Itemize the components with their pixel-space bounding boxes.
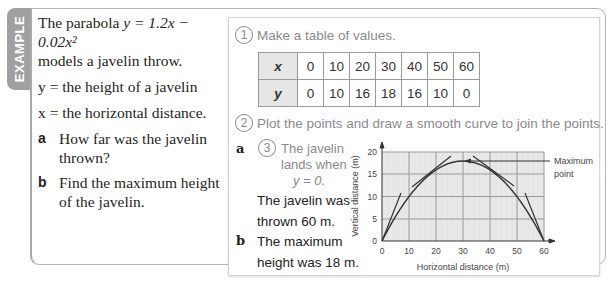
svg-text:10: 10: [404, 246, 414, 256]
step-2: 2 Plot the points and draw a smooth curv…: [235, 114, 604, 132]
svg-text:40: 40: [485, 246, 495, 256]
table-cell: 20: [350, 53, 376, 80]
question-part-a: a How far was the javelin thrown?: [38, 129, 228, 167]
intro-text: The parabola: [38, 14, 123, 31]
table-cell: 16: [350, 80, 376, 107]
step-1: 1 Make a table of values.: [235, 26, 396, 44]
answer-a: The javelin was thrown 60 m.: [257, 190, 350, 232]
values-table: x 0 10 20 30 40 50 60 y 0 10 16 18 16 10…: [258, 52, 480, 107]
intro: The parabola y = 1.2x − 0.02x² models a …: [38, 13, 228, 70]
svg-text:0: 0: [380, 246, 385, 256]
definition-x: x = the horizontal distance.: [38, 103, 228, 122]
table-row-y: y 0 10 16 18 16 10 0: [259, 80, 480, 107]
x-tick-labels: 0 10 20 30 40 50 60: [380, 246, 549, 256]
table-cell: 16: [402, 80, 428, 107]
svg-text:5: 5: [372, 214, 377, 224]
step-2-text: Plot the points and draw a smooth curve …: [257, 116, 604, 131]
table-cell: 30: [376, 53, 402, 80]
svg-text:10: 10: [368, 192, 378, 202]
definition-y: y = the height of a javelin: [38, 77, 228, 96]
svg-text:20: 20: [431, 246, 441, 256]
answer-a-line-2: thrown 60 m.: [257, 214, 335, 229]
svg-text:15: 15: [368, 169, 378, 179]
table-cell: 0: [454, 80, 480, 107]
intro-text-2: models a javelin throw.: [38, 52, 183, 69]
answer-a-line-1: The javelin was: [257, 193, 350, 208]
step-3-text: The javelin lands when y = 0.: [281, 141, 347, 189]
example-tab: EXAMPLE: [7, 8, 31, 90]
svg-text:30: 30: [458, 246, 468, 256]
table-header: x: [259, 53, 298, 80]
step-number-3: 3: [258, 139, 276, 157]
table-cell: 0: [298, 80, 324, 107]
y-tick-labels: 0 5 10 15 20: [368, 147, 378, 246]
table-header: y: [259, 80, 298, 107]
table-cell: 50: [428, 53, 454, 80]
y-axis-label: Vertical distance (m): [350, 155, 360, 237]
svg-text:60: 60: [539, 246, 549, 256]
table-cell: 60: [454, 53, 480, 80]
table-cell: 40: [402, 53, 428, 80]
answer-b-line-1: The maximum: [257, 234, 343, 249]
table-cell: 18: [376, 80, 402, 107]
parabola-chart: Maximum point 0 5 10 15 20 0 10 20 30 40…: [340, 140, 614, 292]
question-part-b: b Find the maximum height of the javelin…: [38, 173, 228, 211]
annotation-point: point: [554, 169, 574, 179]
table-cell: 10: [428, 80, 454, 107]
example-tab-label: EXAMPLE: [12, 16, 27, 82]
svg-text:20: 20: [368, 147, 378, 157]
table-cell: 0: [298, 53, 324, 80]
part-label: a: [38, 129, 59, 167]
question-text: The parabola y = 1.2x − 0.02x² models a …: [38, 13, 228, 217]
table-cell: 10: [324, 80, 350, 107]
svg-text:50: 50: [512, 246, 522, 256]
table-cell: 10: [324, 53, 350, 80]
answer-a-label: a: [236, 141, 244, 156]
step-number-2: 2: [235, 114, 253, 132]
step-3: 3: [258, 139, 280, 157]
step-3-line-1: The javelin: [281, 141, 344, 156]
annotation-maximum: Maximum: [554, 156, 593, 166]
step-3-line-3: y = 0.: [281, 173, 325, 188]
answer-b-label: b: [236, 233, 245, 248]
table-row-x: x 0 10 20 30 40 50 60: [259, 53, 480, 80]
part-label: b: [38, 173, 59, 211]
step-number-1: 1: [235, 26, 253, 44]
step-3-line-2: lands when: [281, 157, 347, 172]
part-text: How far was the javelin thrown?: [59, 129, 228, 167]
part-text: Find the maximum height of the javelin.: [59, 173, 228, 211]
svg-text:0: 0: [372, 236, 377, 246]
x-axis-label: Horizontal distance (m): [417, 262, 510, 272]
step-1-text: Make a table of values.: [257, 28, 396, 43]
